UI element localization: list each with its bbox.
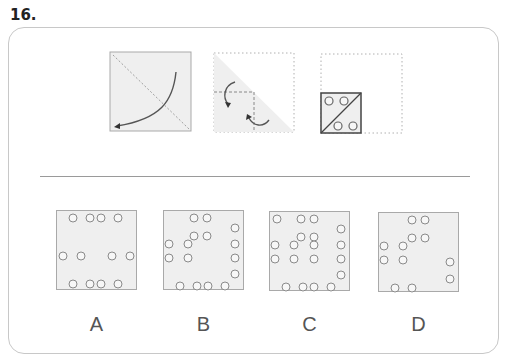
hole-icon (59, 252, 68, 261)
hole-icon (86, 280, 95, 289)
option-b-panel[interactable] (163, 210, 244, 290)
hole-icon (190, 232, 199, 241)
hole-icon (380, 256, 389, 265)
hole-icon (77, 252, 86, 261)
hole-icon (337, 271, 346, 280)
hole-icon (399, 256, 408, 265)
fold-diagonal-figure (109, 51, 193, 133)
hole-icon (391, 284, 400, 293)
hole-icon (310, 283, 319, 292)
hole-icon (190, 214, 199, 223)
hole-icon (282, 283, 291, 292)
hole-icon (203, 232, 212, 241)
hole-icon (165, 254, 174, 263)
fold-triangle-figure (213, 52, 297, 134)
hole-icon (290, 255, 299, 264)
option-a-label[interactable]: A (56, 313, 137, 336)
hole-icon (310, 255, 319, 264)
hole-icon (408, 284, 417, 293)
hole-icon (97, 214, 106, 223)
hole-icon (97, 280, 106, 289)
option-a-panel[interactable] (56, 210, 137, 290)
hole-icon (297, 233, 306, 242)
hole-icon (297, 215, 306, 224)
hole-icon (327, 283, 336, 292)
hole-icon (126, 252, 135, 261)
hole-icon (221, 282, 230, 291)
hole-icon (408, 234, 417, 243)
hole-icon (421, 234, 430, 243)
hole-icon (204, 282, 213, 291)
hole-icon (165, 240, 174, 249)
hole-icon (271, 241, 280, 250)
hole-icon (86, 214, 95, 223)
hole-icon (176, 282, 185, 291)
option-c-label[interactable]: C (269, 313, 350, 336)
hole-icon (231, 254, 240, 263)
hole-icon (446, 275, 455, 284)
hole-icon (399, 242, 408, 251)
hole-icon (380, 242, 389, 251)
hole-icon (446, 258, 455, 267)
hole-icon (299, 283, 308, 292)
hole-icon (193, 282, 202, 291)
hole-icon (231, 224, 240, 233)
hole-icon (184, 254, 193, 263)
hole-icon (271, 255, 280, 264)
option-d-label[interactable]: D (378, 313, 459, 336)
hole-icon (310, 241, 319, 250)
hole-icon (273, 215, 282, 224)
hole-icon (69, 214, 78, 223)
hole-icon (421, 216, 430, 225)
hole-icon (337, 241, 346, 250)
hole-icon (337, 225, 346, 234)
hole-icon (69, 280, 78, 289)
hole-icon (408, 216, 417, 225)
hole-icon (337, 255, 346, 264)
option-c-panel[interactable] (269, 211, 350, 291)
hole-icon (203, 214, 212, 223)
hole-icon (184, 240, 193, 249)
hole-icon (108, 252, 117, 261)
section-divider (40, 176, 470, 177)
question-number: 16. (10, 6, 37, 24)
option-d-panel[interactable] (378, 212, 459, 292)
hole-icon (114, 214, 123, 223)
option-b-label[interactable]: B (163, 313, 244, 336)
hole-icon (231, 270, 240, 279)
hole-icon (114, 280, 123, 289)
punched-result-figure (320, 53, 404, 135)
hole-icon (310, 215, 319, 224)
hole-icon (231, 240, 240, 249)
hole-icon (290, 241, 299, 250)
